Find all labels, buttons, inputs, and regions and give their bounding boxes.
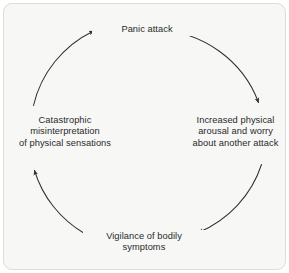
arrow-vigilance-to-catastrophic: [35, 171, 85, 234]
node-label-increased-arousal: Increased physical arousal and worry abo…: [182, 114, 286, 150]
figure-panel: Panic attack Increased physical arousal …: [3, 3, 286, 270]
arrow-arousal-to-vigilance: [199, 165, 262, 233]
arrow-catastrophic-to-panic: [34, 31, 94, 106]
node-label-catastrophic-misinterpretation: Catastrophic misinterpretation of physic…: [8, 114, 122, 150]
node-label-panic-attack: Panic attack: [92, 23, 202, 36]
node-label-vigilance: Vigilance of bodily symptoms: [83, 230, 205, 255]
arrow-panic-to-arousal: [157, 30, 259, 103]
